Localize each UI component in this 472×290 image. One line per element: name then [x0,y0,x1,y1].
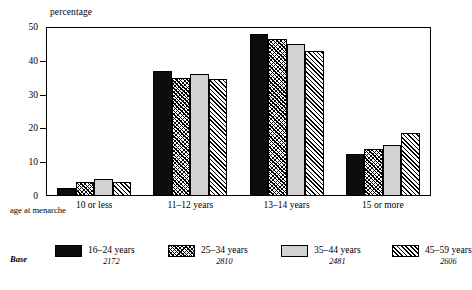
y-axis-tick-label: 50 [29,22,39,32]
y-axis-tick-label: 0 [33,191,38,201]
bar[interactable] [287,44,306,196]
bar[interactable] [57,188,76,196]
legend-text: 35–44 years2481 [314,243,361,267]
bar-groups: 10 or less11–12 years13–14 years15 or mo… [46,27,431,196]
legend-item[interactable]: 45–59 years2606 [392,243,472,267]
legend-series-name: 45–59 years [425,243,472,256]
bar[interactable] [94,179,113,196]
chart-legend: Base 16–24 years217225–34 years281035–44… [0,243,446,273]
legend-swatch [168,245,195,257]
x-axis-group-label: 10 or less [57,200,131,210]
y-axis-tick-label: 20 [29,123,39,133]
legend-text: 16–24 years2172 [88,243,135,267]
bar[interactable] [76,182,95,196]
bar[interactable] [383,145,402,196]
bar-group-bars [57,27,131,196]
legend-swatch [392,245,419,257]
y-axis-tick-labels: 01020304050 [0,0,46,196]
bar[interactable] [401,133,420,196]
legend-series-name: 25–34 years [201,243,248,256]
legend-series-base: 2606 [425,256,472,267]
bar[interactable] [190,74,209,196]
bar-group: 13–14 years [250,27,324,196]
bar[interactable] [113,182,132,196]
legend-text: 25–34 years2810 [201,243,248,267]
bar[interactable] [346,154,365,196]
legend-base-word: Base [10,254,27,264]
bar[interactable] [305,51,324,196]
legend-item[interactable]: 16–24 years2172 [55,243,135,267]
legend-series-base: 2481 [314,256,361,267]
y-axis-tick-label: 10 [29,157,39,167]
y-axis-tick-label: 40 [29,56,39,66]
x-axis-group-label: 13–14 years [250,200,324,210]
bar[interactable] [364,149,383,196]
bar[interactable] [172,78,191,196]
legend-series-base: 2810 [201,256,248,267]
bar-group-bars [250,27,324,196]
bar[interactable] [153,71,172,196]
bar-group: 15 or more [346,27,420,196]
x-axis-group-label: 15 or more [346,200,420,210]
y-axis-title: percentage [50,7,92,17]
x-axis-title: age at menarche [10,205,66,215]
legend-item[interactable]: 35–44 years2481 [281,243,361,267]
x-axis-group-label: 11–12 years [153,200,227,210]
legend-swatch [55,245,82,257]
bar[interactable] [250,34,269,196]
y-axis-tick-label: 30 [29,90,39,100]
bar[interactable] [209,79,228,196]
legend-series-name: 35–44 years [314,243,361,256]
legend-text: 45–59 years2606 [425,243,472,267]
legend-series-name: 16–24 years [88,243,135,256]
legend-item[interactable]: 25–34 years2810 [168,243,248,267]
bar-group: 11–12 years [153,27,227,196]
bar[interactable] [268,39,287,196]
legend-swatch [281,245,308,257]
legend-series-base: 2172 [88,256,135,267]
bar-group: 10 or less [57,27,131,196]
bar-group-bars [153,27,227,196]
bar-group-bars [346,27,420,196]
